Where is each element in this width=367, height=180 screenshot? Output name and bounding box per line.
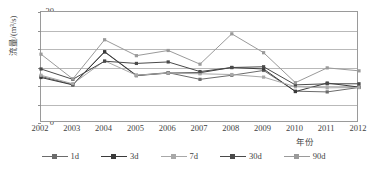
legend-label: 7d [190, 152, 199, 161]
data-point [326, 90, 329, 93]
data-point [326, 82, 329, 85]
data-point [326, 66, 329, 69]
legend-label: 1d [71, 152, 80, 161]
data-point [103, 50, 106, 53]
data-point [230, 32, 233, 35]
x-axis-tick-label: 2012 [341, 124, 367, 133]
series-90d [39, 32, 360, 84]
data-point [103, 38, 106, 41]
x-axis-tick-label: 2011 [309, 124, 343, 133]
y-axis-title: 流量/(m³/s) [6, 0, 18, 76]
data-point [326, 86, 329, 89]
x-axis-tick-label: 2005 [118, 124, 152, 133]
data-point [262, 51, 265, 54]
legend-item-1d[interactable]: 1d [42, 152, 80, 161]
legend-item-7d[interactable]: 7d [161, 152, 199, 161]
data-point [167, 60, 170, 63]
data-point [357, 69, 360, 72]
legend-marker-icon [101, 152, 127, 161]
flow-rate-line-chart: 流量/(m³/s) 051015202530 20022003200420052… [0, 0, 367, 180]
x-axis-title: 年份 [296, 135, 314, 147]
data-point [135, 54, 138, 57]
data-point [262, 76, 265, 79]
x-axis-tick-label: 2009 [246, 124, 280, 133]
legend-marker-icon [284, 152, 310, 161]
data-point [135, 74, 138, 77]
chart-legend: 1d3d7d30d90d [0, 152, 367, 161]
legend-item-30d[interactable]: 30d [220, 152, 262, 161]
data-point [294, 81, 297, 84]
legend-item-90d[interactable]: 90d [284, 152, 326, 161]
data-point [39, 74, 42, 77]
data-point [198, 78, 201, 81]
legend-label: 90d [313, 152, 326, 161]
plot-area [40, 11, 358, 122]
legend-marker-icon [42, 152, 68, 161]
legend-item-3d[interactable]: 3d [101, 152, 139, 161]
data-point [167, 71, 170, 74]
data-point [135, 62, 138, 65]
x-axis-tick-label: 2010 [277, 124, 311, 133]
legend-marker-icon [220, 152, 246, 161]
data-point [71, 82, 74, 85]
data-point [39, 67, 42, 70]
legend-label: 3d [130, 152, 139, 161]
x-axis-tick-label: 2003 [55, 124, 89, 133]
x-axis-tick-label: 2006 [150, 124, 184, 133]
legend-label: 30d [249, 152, 262, 161]
x-axis-tick-label: 2008 [214, 124, 248, 133]
data-point [198, 70, 201, 73]
data-point [294, 90, 297, 93]
data-point [39, 53, 42, 56]
data-point [262, 65, 265, 68]
data-point [167, 49, 170, 52]
data-point [230, 66, 233, 69]
series-layer [41, 12, 359, 123]
legend-marker-icon [161, 152, 187, 161]
data-point [198, 63, 201, 66]
data-point [230, 73, 233, 76]
x-axis-tick-label: 2007 [182, 124, 216, 133]
data-point [71, 77, 74, 80]
x-axis-tick-label: 2002 [23, 124, 57, 133]
data-point [357, 82, 360, 85]
data-point [103, 60, 106, 63]
x-axis-tick-label: 2004 [87, 124, 121, 133]
data-point [357, 86, 360, 89]
